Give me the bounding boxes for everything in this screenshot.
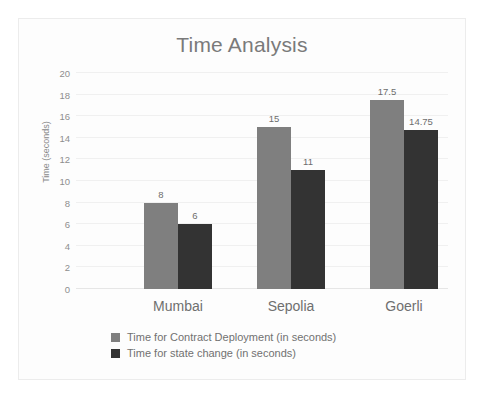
x-axis-category-label: Goerli bbox=[349, 298, 459, 314]
y-axis-tick-label: 10 bbox=[59, 176, 70, 187]
chart-container: Time Analysis Time (seconds) 20181614121… bbox=[18, 18, 466, 380]
y-axis-tick-label: 4 bbox=[65, 240, 70, 251]
chart-title: Time Analysis bbox=[19, 33, 465, 57]
chart-legend: Time for Contract Deployment (in seconds… bbox=[19, 331, 465, 363]
x-axis-category-label: Mumbai bbox=[123, 298, 233, 314]
bar bbox=[291, 170, 325, 289]
legend-label: Time for Contract Deployment (in seconds… bbox=[127, 331, 336, 343]
bar-value-label: 14.75 bbox=[391, 116, 451, 127]
y-axis-title: Time (seconds) bbox=[41, 97, 51, 207]
legend-item[interactable]: Time for state change (in seconds) bbox=[19, 347, 465, 359]
bar bbox=[370, 100, 404, 289]
legend-swatch-icon bbox=[111, 333, 120, 342]
bar-value-label: 6 bbox=[165, 210, 225, 221]
bar-value-label: 11 bbox=[278, 156, 338, 167]
bar-group: 86Mumbai bbox=[144, 73, 212, 289]
bar-group: 1511Sepolia bbox=[257, 73, 325, 289]
y-axis-tick-label: 2 bbox=[65, 262, 70, 273]
x-axis-category-label: Sepolia bbox=[236, 298, 346, 314]
bar-group: 17.514.75Goerli bbox=[370, 73, 438, 289]
bar-value-label: 15 bbox=[244, 113, 304, 124]
legend-swatch-icon bbox=[111, 349, 120, 358]
y-axis-tick-label: 0 bbox=[65, 284, 70, 295]
y-axis-tick-label: 12 bbox=[59, 154, 70, 165]
y-axis-tick-label: 18 bbox=[59, 89, 70, 100]
bar-value-label: 8 bbox=[131, 189, 191, 200]
y-axis-tick-label: 6 bbox=[65, 219, 70, 230]
y-axis-tick-label: 8 bbox=[65, 197, 70, 208]
legend-label: Time for state change (in seconds) bbox=[127, 347, 296, 359]
legend-item[interactable]: Time for Contract Deployment (in seconds… bbox=[19, 331, 465, 343]
bar bbox=[257, 127, 291, 289]
bar bbox=[404, 130, 438, 289]
bar-value-label: 17.5 bbox=[357, 86, 417, 97]
y-axis-tick-label: 14 bbox=[59, 132, 70, 143]
y-axis-tick-label: 20 bbox=[59, 68, 70, 79]
plot-area: 20181614121086420 86Mumbai1511Sepolia17.… bbox=[76, 73, 448, 289]
y-axis-tick-label: 16 bbox=[59, 111, 70, 122]
bar bbox=[178, 224, 212, 289]
